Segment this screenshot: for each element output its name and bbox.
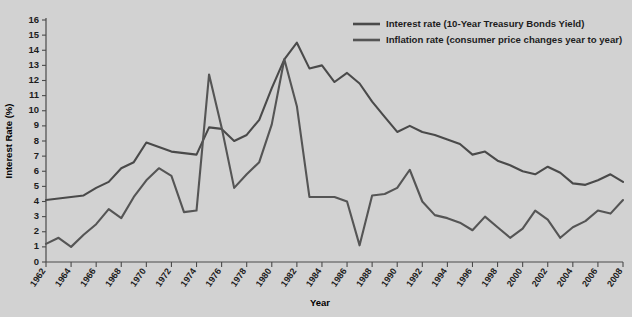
y-tick-label: 6 — [34, 165, 39, 176]
y-tick-label: 9 — [34, 119, 39, 130]
y-tick-label: 1 — [34, 240, 40, 251]
legend-label: Inflation rate (consumer price changes y… — [386, 34, 622, 45]
y-tick-label: 13 — [28, 59, 39, 70]
interest-inflation-line-chart: 012345678910111213141516 196219641966196… — [0, 0, 632, 317]
y-tick-label: 3 — [34, 210, 39, 221]
y-tick-label: 14 — [28, 44, 39, 55]
y-tick-label: 15 — [28, 29, 39, 40]
y-tick-label: 2 — [34, 225, 39, 236]
legend-label: Interest rate (10-Year Treasury Bonds Yi… — [386, 18, 584, 29]
y-tick-label: 0 — [34, 256, 39, 267]
y-tick-label: 10 — [28, 104, 39, 115]
y-tick-label: 7 — [34, 150, 39, 161]
y-axis-title: Interest Rate (%) — [3, 104, 14, 179]
chart-container: 012345678910111213141516 196219641966196… — [0, 0, 632, 317]
y-tick-label: 16 — [28, 14, 39, 25]
y-tick-label: 12 — [28, 74, 39, 85]
y-tick-label: 4 — [34, 195, 40, 206]
y-tick-label: 11 — [29, 89, 40, 100]
y-tick-label: 5 — [34, 180, 40, 191]
x-axis-title: Year — [310, 297, 330, 308]
y-tick-label: 8 — [34, 135, 39, 146]
